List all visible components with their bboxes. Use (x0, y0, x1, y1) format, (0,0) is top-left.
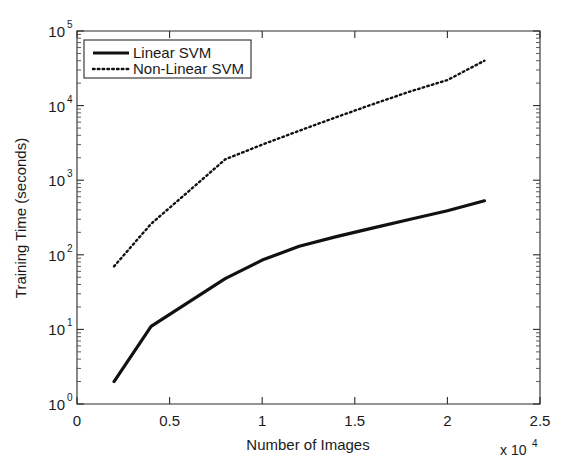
x-tick-label: 2 (443, 412, 451, 429)
y-tick-label: 10 (48, 23, 65, 40)
y-tick-exponent: 1 (67, 317, 73, 328)
chart-figure: 100101102103104105 00.511.522.5 Training… (0, 0, 576, 471)
y-tick-label: 10 (48, 98, 65, 115)
x-tick-label: 0.5 (159, 412, 180, 429)
y-tick-label: 10 (48, 172, 65, 189)
x-tick-label: 1.5 (344, 412, 365, 429)
y-tick-exponent: 0 (67, 392, 73, 403)
x-axis-title-text: Number of Images (246, 436, 369, 453)
y-tick-label: 10 (48, 321, 65, 338)
legend-label-linear-svm: Linear SVM (133, 44, 211, 61)
y-axis-title-text: Training Time (seconds) (12, 138, 29, 298)
y-tick-exponent: 4 (67, 94, 73, 105)
y-axis-title: Training Time (seconds) (12, 138, 29, 298)
legend-label-non-linear-svm: Non-Linear SVM (133, 60, 244, 77)
y-tick-label: 10 (48, 396, 65, 413)
y-tick-exponent: 5 (67, 19, 73, 30)
y-tick-exponent: 2 (67, 243, 73, 254)
x-tick-label: 2.5 (530, 412, 551, 429)
x-multiplier-exponent: 4 (532, 438, 538, 449)
y-tick-exponent: 3 (67, 168, 73, 179)
x-tick-label: 0 (73, 412, 81, 429)
x-tick-label: 1 (258, 412, 266, 429)
chart-legend[interactable]: Linear SVM Non-Linear SVM (84, 40, 251, 78)
y-tick-label: 10 (48, 247, 65, 264)
training-time-log-plot: 100101102103104105 00.511.522.5 Training… (0, 0, 576, 471)
x-multiplier-base: x 10 (500, 442, 527, 458)
